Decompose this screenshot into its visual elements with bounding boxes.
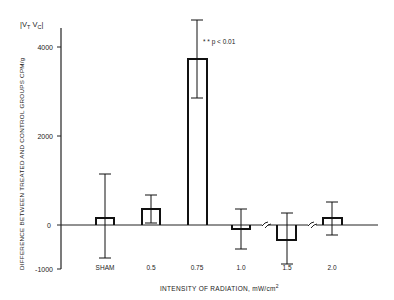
svg-text:1.0: 1.0 bbox=[236, 264, 245, 271]
svg-text:2.0: 2.0 bbox=[327, 264, 336, 271]
svg-text:SHAM: SHAM bbox=[96, 264, 115, 271]
zero-baseline bbox=[61, 222, 378, 228]
y-axis-label: DIFFERENCE BETWEEN TREATED AND CONTROL G… bbox=[18, 57, 25, 270]
error-bars bbox=[99, 20, 338, 264]
svg-text:1.5: 1.5 bbox=[282, 264, 291, 271]
bar-chart: |VT VC| DIFFERENCE BETWEEN TREATED AND C… bbox=[0, 0, 394, 300]
corner-label: |VT VC| bbox=[20, 20, 43, 30]
x-tick-labels: SHAM 0.5 0.75 1.0 1.5 2.0 bbox=[96, 264, 337, 271]
significance-annotation: * * p < 0.01 bbox=[203, 38, 236, 46]
svg-text:4000: 4000 bbox=[37, 44, 53, 51]
x-axis-label: INTENSITY OF RADIATION, mW/cm2 bbox=[160, 283, 279, 292]
svg-text:0.75: 0.75 bbox=[191, 264, 204, 271]
svg-text:-1000: -1000 bbox=[35, 266, 53, 273]
svg-text:0.5: 0.5 bbox=[146, 264, 155, 271]
y-tick-labels: 4000 2000 0 -1000 bbox=[35, 44, 53, 273]
svg-text:2000: 2000 bbox=[37, 133, 53, 140]
svg-text:0: 0 bbox=[47, 222, 51, 229]
